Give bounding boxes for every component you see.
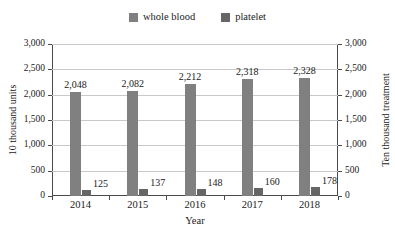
y-axis-left-tick — [48, 44, 52, 45]
chart-container: whole blood platelet 10 thousand units T… — [0, 0, 395, 246]
y-axis-left-tick-label: 500 — [31, 166, 45, 176]
bar-value-label-whole-blood: 2,048 — [64, 80, 87, 90]
bar-group: 2,048125 — [70, 44, 91, 196]
plot-area: 3,0003,0002,5002,5002,0002,0001,5001,500… — [52, 44, 338, 196]
legend-label-whole-blood: whole blood — [143, 12, 195, 23]
bar-whole-blood[interactable]: 2,318 — [242, 79, 253, 196]
bar-value-label-platelet: 148 — [208, 178, 223, 188]
bar-platelet[interactable]: 137 — [139, 189, 148, 196]
y-axis-left-tick-label: 1,500 — [24, 115, 45, 125]
y-axis-left-tick-label: 3,000 — [24, 39, 45, 49]
chart-legend: whole blood platelet — [0, 12, 395, 23]
bar-platelet[interactable]: 160 — [254, 188, 263, 196]
x-axis-category-label: 2016 — [166, 200, 223, 211]
y-axis-right-tick — [338, 120, 342, 121]
y-axis-left-title: 10 thousand units — [6, 44, 20, 196]
y-axis-right-tick — [338, 69, 342, 70]
y-axis-right-tick-label: 3,000 — [345, 39, 366, 49]
legend-item-platelet: platelet — [221, 12, 266, 23]
y-axis-left-tick — [48, 120, 52, 121]
bar-value-label-platelet: 125 — [93, 179, 108, 189]
y-axis-right-tick — [338, 95, 342, 96]
bar-value-label-platelet: 178 — [322, 176, 337, 186]
y-axis-right-tick — [338, 145, 342, 146]
y-axis-left-tick-label: 2,000 — [24, 90, 45, 100]
y-axis-left-tick — [48, 145, 52, 146]
bar-value-label-whole-blood: 2,328 — [293, 66, 316, 76]
bar-whole-blood[interactable]: 2,048 — [70, 92, 81, 196]
y-axis-right-title: Ten thousand treatment — [379, 44, 393, 196]
y-axis-right-tick-label: 1,000 — [345, 140, 366, 150]
y-axis-left-tick — [48, 95, 52, 96]
bar-value-label-whole-blood: 2,212 — [179, 72, 202, 82]
y-axis-left-tick-label: 2,500 — [24, 64, 45, 74]
y-axis-left-tick-label: 0 — [40, 191, 45, 201]
x-axis-tick — [338, 196, 339, 200]
x-axis-category-label: 2015 — [109, 200, 166, 211]
y-axis-left-title-text: 10 thousand units — [8, 85, 18, 156]
bar-value-label-platelet: 137 — [150, 178, 165, 188]
y-axis-left-tick — [48, 69, 52, 70]
legend-swatch-platelet — [221, 13, 230, 22]
y-axis-right-tick — [338, 171, 342, 172]
x-axis-category-label: 2017 — [224, 200, 281, 211]
x-axis-category-label: 2014 — [52, 200, 109, 211]
bar-platelet[interactable]: 125 — [82, 190, 91, 196]
bar-group: 2,318160 — [242, 44, 263, 196]
y-axis-right-title-text: Ten thousand treatment — [381, 73, 391, 167]
x-axis-title: Year — [52, 216, 338, 227]
bar-group: 2,082137 — [127, 44, 148, 196]
y-axis-right-tick — [338, 44, 342, 45]
bar-whole-blood[interactable]: 2,328 — [299, 78, 310, 196]
legend-item-whole-blood: whole blood — [129, 12, 195, 23]
bar-platelet[interactable]: 178 — [311, 187, 320, 196]
bar-platelet[interactable]: 148 — [197, 189, 206, 196]
bar-whole-blood[interactable]: 2,212 — [185, 84, 196, 196]
y-axis-left-tick-label: 1,000 — [24, 140, 45, 150]
y-axis-right-tick-label: 0 — [345, 191, 350, 201]
y-axis-right-tick-label: 500 — [345, 166, 359, 176]
bar-group: 2,328178 — [299, 44, 320, 196]
bar-whole-blood[interactable]: 2,082 — [127, 91, 138, 196]
y-axis-left-tick — [48, 171, 52, 172]
x-axis-category-label: 2018 — [281, 200, 338, 211]
bar-value-label-whole-blood: 2,318 — [236, 67, 259, 77]
bar-value-label-platelet: 160 — [265, 177, 280, 187]
y-axis-right-tick-label: 1,500 — [345, 115, 366, 125]
legend-label-platelet: platelet — [235, 12, 266, 23]
bar-value-label-whole-blood: 2,082 — [122, 79, 145, 89]
y-axis-right-tick-label: 2,000 — [345, 90, 366, 100]
legend-swatch-whole-blood — [129, 13, 138, 22]
y-axis-right-tick-label: 2,500 — [345, 64, 366, 74]
bar-group: 2,212148 — [185, 44, 206, 196]
